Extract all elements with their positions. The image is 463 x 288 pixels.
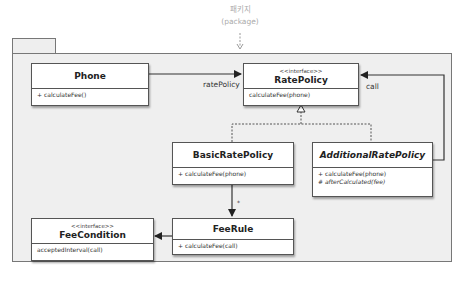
class-header: AdditionalRatePolicy (313, 143, 432, 168)
class-phone[interactable]: Phone + calculateFee() (31, 63, 149, 106)
class-fee-rule[interactable]: FeeRule + calculateFee(call) (172, 218, 294, 255)
method: calculateFee(phone) (249, 91, 353, 99)
class-basic-rate-policy[interactable]: BasicRatePolicy + calculateFee(phone) (172, 142, 294, 185)
class-header: Phone (32, 64, 148, 89)
class-name: FeeRule (213, 224, 254, 234)
role-rate-policy: ratePolicy (203, 80, 240, 89)
class-methods: + calculateFee(phone) (173, 168, 293, 180)
stereotype: <<interface>> (71, 223, 114, 230)
class-methods: + calculateFee(phone) # afterCalculated(… (313, 168, 432, 188)
method: acceptedInterval(call) (37, 246, 148, 254)
class-rate-policy[interactable]: <<interface>> RatePolicy calculateFee(ph… (243, 63, 359, 106)
method: + calculateFee() (37, 91, 143, 99)
class-methods: + calculateFee() (32, 89, 148, 101)
class-header: <<interface>> RatePolicy (244, 64, 358, 89)
method: + calculateFee(phone) (318, 170, 427, 178)
class-name: Phone (74, 71, 106, 81)
class-additional-rate-policy[interactable]: AdditionalRatePolicy + calculateFee(phon… (312, 142, 433, 197)
class-methods: calculateFee(phone) (244, 89, 358, 101)
class-methods: acceptedInterval(call) (32, 244, 153, 256)
method: + calculateFee(phone) (178, 170, 288, 178)
method: + calculateFee(call) (178, 242, 288, 250)
role-call: call (366, 82, 379, 91)
method: # afterCalculated(fee) (318, 178, 427, 186)
class-header: FeeRule (173, 219, 293, 240)
stereotype: <<interface>> (280, 68, 323, 75)
class-fee-condition[interactable]: <<interface>> FeeCondition acceptedInter… (31, 218, 154, 261)
class-header: BasicRatePolicy (173, 143, 293, 168)
class-methods: + calculateFee(call) (173, 240, 293, 252)
class-name: AdditionalRatePolicy (320, 150, 425, 160)
class-name: BasicRatePolicy (193, 150, 273, 160)
class-name: RatePolicy (274, 75, 328, 85)
class-name: FeeCondition (59, 230, 126, 240)
multiplicity-many: * (237, 199, 240, 206)
class-header: <<interface>> FeeCondition (32, 219, 153, 244)
